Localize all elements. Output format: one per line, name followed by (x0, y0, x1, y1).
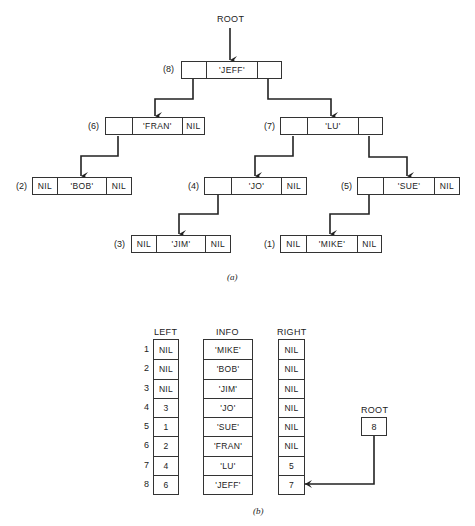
root-label: ROOT (217, 14, 244, 24)
row-number: 1 (139, 344, 149, 354)
node-index-label: (3) (114, 239, 125, 249)
root-pointer-label: ROOT (361, 405, 388, 415)
right-cell: 7 (279, 475, 304, 494)
node-index-label: (6) (88, 121, 99, 131)
right-pointer-cell (358, 118, 382, 134)
row-number: 5 (139, 421, 149, 431)
row-number: 4 (139, 402, 149, 412)
row-number: 7 (139, 460, 149, 470)
info-cell: 'FRAN' (132, 118, 182, 134)
tree-node-fran: 'FRAN' NIL (105, 117, 205, 135)
left-cell: 1 (154, 417, 178, 436)
header-info: INFO (216, 327, 239, 337)
info-cell: 'JEFF' (206, 62, 257, 78)
left-pointer-cell (205, 178, 231, 194)
right-cell: NIL (279, 340, 304, 359)
right-pointer-cell: NIL (182, 118, 204, 134)
right-pointer-cell: NIL (106, 178, 131, 194)
row-number: 8 (139, 479, 149, 489)
node-index-label: (7) (264, 121, 275, 131)
info-cell: 'BOB' (57, 178, 106, 194)
info-cell: 'JO' (204, 398, 252, 417)
tree-node-jeff: 'JEFF' (181, 61, 282, 79)
root-pointer-box: 8 (361, 417, 387, 436)
info-cell: 'JEFF' (204, 475, 252, 494)
node-index-label: (2) (16, 181, 27, 191)
info-cell: 'FRAN' (204, 436, 252, 455)
right-pointer-cell (257, 62, 281, 78)
node-index-label: (1) (264, 239, 275, 249)
info-cell: 'BOB' (204, 359, 252, 378)
right-cell: NIL (279, 436, 304, 455)
left-pointer-cell (182, 62, 206, 78)
edge-7-5 (369, 136, 407, 176)
edge-5-1 (330, 195, 369, 234)
right-cell: NIL (279, 398, 304, 417)
tree-node-jo: 'JO' NIL (204, 177, 307, 195)
left-pointer-cell: NIL (33, 178, 57, 194)
left-pointer-cell: NIL (281, 236, 306, 252)
info-cell: 'SUE' (383, 178, 434, 194)
right-cell: NIL (279, 379, 304, 398)
info-cell: 'JO' (231, 178, 281, 194)
node-index-label: (8) (163, 64, 174, 74)
right-cell: NIL (279, 359, 304, 378)
row-number: 6 (139, 440, 149, 450)
edge-7-4 (255, 136, 293, 176)
left-pointer-cell (358, 178, 383, 194)
left-cell: NIL (154, 379, 178, 398)
edge-8-7 (268, 79, 331, 116)
info-cell: 'LU' (307, 118, 358, 134)
tree-node-jim: NIL 'JIM' NIL (131, 235, 231, 253)
tree-node-mike: NIL 'MIKE' NIL (280, 235, 382, 253)
right-pointer-cell: NIL (357, 236, 381, 252)
edge-4-3 (179, 195, 218, 234)
left-cell: 2 (154, 436, 178, 455)
node-index-label: (5) (341, 181, 352, 191)
right-pointer-cell: NIL (281, 178, 306, 194)
tree-node-sue: 'SUE' NIL (357, 177, 460, 195)
right-array-column: NIL NIL NIL NIL NIL NIL 5 7 (278, 339, 305, 495)
right-pointer-cell: NIL (434, 178, 459, 194)
left-pointer-cell (106, 118, 132, 134)
info-cell: 'LU' (204, 456, 252, 475)
edge-6-2 (81, 136, 118, 176)
right-cell: NIL (279, 417, 304, 436)
left-cell: 6 (154, 475, 178, 494)
info-cell: 'SUE' (204, 417, 252, 436)
row-number: 3 (139, 383, 149, 393)
node-index-label: (4) (188, 181, 199, 191)
edge-8-6 (155, 79, 193, 116)
info-array-column: 'MIKE' 'BOB' 'JIM' 'JO' 'SUE' 'FRAN' 'LU… (203, 339, 253, 495)
left-array-column: NIL NIL NIL 3 1 2 4 6 (153, 339, 179, 495)
tree-node-lu: 'LU' (280, 117, 383, 135)
info-cell: 'JIM' (156, 236, 205, 252)
left-cell: NIL (154, 340, 178, 359)
tree-node-bob: NIL 'BOB' NIL (32, 177, 132, 195)
row-number: 2 (139, 363, 149, 373)
info-cell: 'JIM' (204, 379, 252, 398)
right-cell: 5 (279, 456, 304, 475)
right-pointer-cell: NIL (205, 236, 230, 252)
info-cell: 'MIKE' (306, 236, 357, 252)
left-pointer-cell: NIL (132, 236, 156, 252)
edge-root-table (305, 436, 374, 484)
header-right: RIGHT (277, 327, 307, 337)
left-cell: NIL (154, 359, 178, 378)
left-cell: 3 (154, 398, 178, 417)
info-cell: 'MIKE' (204, 340, 252, 359)
left-cell: 4 (154, 456, 178, 475)
caption-b: (b) (253, 506, 264, 516)
header-left: LEFT (154, 327, 177, 337)
caption-a: (a) (227, 272, 238, 282)
left-pointer-cell (281, 118, 307, 134)
